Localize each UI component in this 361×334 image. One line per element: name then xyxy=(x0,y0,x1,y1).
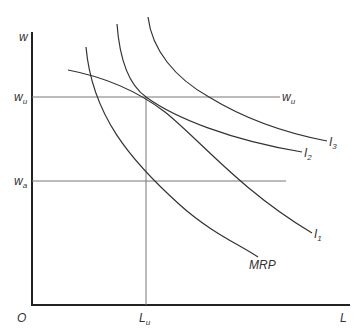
labor-supply-diagram: w L O wu wu wa Lu I1 I2 I3 MRP xyxy=(0,0,361,334)
x-axis-label: L xyxy=(340,311,347,325)
wu-left-label: wu xyxy=(14,90,28,106)
i1-curve xyxy=(68,70,312,233)
i1-label: I1 xyxy=(314,227,322,243)
i2-label: I2 xyxy=(304,146,312,162)
mrp-curve xyxy=(86,47,258,257)
wa-label: wa xyxy=(14,174,28,190)
y-axis-label: w xyxy=(19,30,29,44)
mrp-label: MRP xyxy=(249,258,276,272)
wu-right-label: wu xyxy=(282,90,296,106)
lu-label: Lu xyxy=(139,311,151,327)
i3-label: I3 xyxy=(329,135,337,151)
i3-curve xyxy=(148,17,327,141)
origin-label: O xyxy=(17,311,26,325)
i2-curve xyxy=(117,24,302,152)
